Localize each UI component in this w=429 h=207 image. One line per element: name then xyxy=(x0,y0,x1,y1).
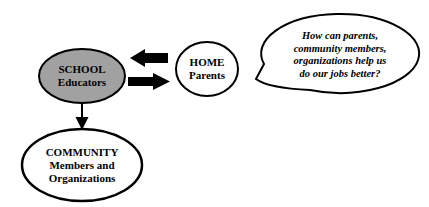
school-node-ellipse xyxy=(39,49,125,103)
arrow-home-to-school-icon xyxy=(130,49,168,67)
diagram-canvas: SCHOOL Educators HOME Parents COMMUNITY … xyxy=(0,0,429,207)
home-node-ellipse xyxy=(176,42,238,96)
diagram-shapes xyxy=(0,0,429,207)
community-node-ellipse xyxy=(22,129,142,201)
arrow-school-to-home-icon xyxy=(128,73,170,90)
speech-bubble-shape xyxy=(256,14,419,93)
